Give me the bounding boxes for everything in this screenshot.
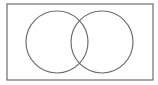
universe-rectangle [7,4,153,80]
set-a-circle [26,11,88,73]
set-b-circle [71,11,133,73]
venn-diagram [0,0,158,85]
